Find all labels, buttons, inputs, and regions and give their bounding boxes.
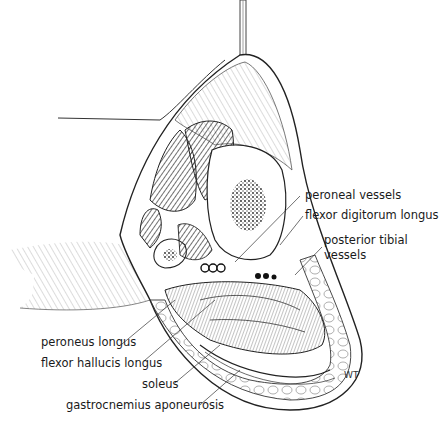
label-gastrocnemius-aponeurosis: gastrocnemius aponeurosis (66, 399, 224, 412)
label-soleus: soleus (142, 378, 179, 391)
label-flexor-digitorum-longus: flexor digitorum longus (305, 209, 439, 222)
retractor-instrument (240, 0, 246, 60)
artist-signature: WT (344, 370, 358, 380)
label-peroneus-longus: peroneus longus (41, 336, 136, 349)
tibia-marrow (230, 179, 266, 231)
label-posterior-tibial-vessels-line2: vessels (324, 249, 366, 262)
label-flexor-hallucis-longus: flexor hallucis longus (41, 357, 162, 370)
peroneal-vessels-glyph (201, 264, 225, 272)
label-posterior-tibial-vessels: posterior tibial (324, 234, 408, 247)
label-peroneal-vessels: peroneal vessels (305, 189, 401, 202)
